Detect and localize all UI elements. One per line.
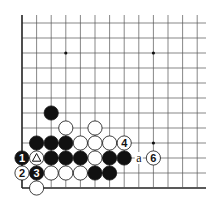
white-stone (59, 121, 73, 135)
letter-mark: a (136, 151, 142, 165)
white-stone (29, 151, 43, 165)
white-stone (103, 136, 117, 150)
black-stone (59, 151, 73, 165)
white-stone (29, 181, 43, 195)
black-stone (59, 136, 73, 150)
star-point (152, 51, 155, 54)
star-point (64, 51, 67, 54)
star-point (152, 141, 155, 144)
white-stone (88, 151, 102, 165)
black-stone (44, 136, 58, 150)
white-stone: 2 (15, 166, 29, 180)
move-number: 3 (34, 167, 40, 179)
white-stone (59, 166, 73, 180)
black-stone (73, 151, 87, 165)
black-stone (29, 136, 43, 150)
move-number: 2 (19, 167, 25, 179)
black-stone (117, 151, 131, 165)
black-stone (88, 166, 102, 180)
white-stone (88, 121, 102, 135)
white-stone (73, 166, 87, 180)
move-number: 4 (121, 137, 128, 149)
white-stone (44, 166, 58, 180)
move-number: 1 (19, 152, 25, 164)
white-stone: 4 (117, 136, 131, 150)
black-stone (103, 151, 117, 165)
letter-annotations: a (135, 151, 143, 165)
black-stone (44, 151, 58, 165)
go-board: 41623 a (0, 0, 214, 205)
black-stone (103, 166, 117, 180)
black-stone: 1 (15, 151, 29, 165)
move-number: 6 (150, 152, 156, 164)
white-stone (88, 136, 102, 150)
black-stone: 3 (29, 166, 43, 180)
white-stone: 6 (146, 151, 160, 165)
black-stone (44, 106, 58, 120)
white-stone (73, 136, 87, 150)
